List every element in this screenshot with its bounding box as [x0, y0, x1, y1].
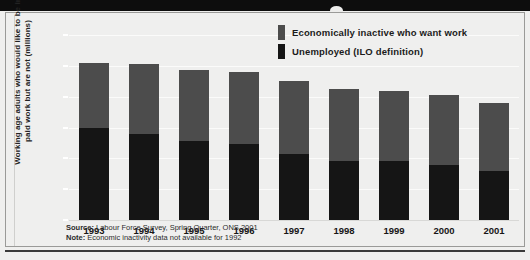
bar-segment-inactive [429, 95, 459, 164]
chart-plate: Working age adults who would like to be … [5, 12, 525, 247]
bar-segment-unemployed [129, 134, 159, 220]
x-tick-label-1999: 1999 [370, 225, 418, 236]
bar-segment-unemployed [279, 154, 309, 220]
gridline [69, 220, 519, 221]
note-label: Note: [66, 233, 85, 242]
y-axis-title: Working age adults who would like to be … [13, 0, 33, 172]
y-tick-mark [63, 157, 68, 159]
legend-item-unemployed: Unemployed (ILO definition) [278, 42, 467, 61]
source-text: Labour Force Survey, Spring Quarter, ONS… [94, 223, 258, 232]
source-label: Source: [66, 223, 94, 232]
bar-segment-inactive [79, 63, 109, 128]
note-text: Economic inactivity data not available f… [85, 233, 241, 242]
legend-swatch-inactive [278, 25, 285, 40]
bar-2001 [479, 103, 509, 220]
bar-segment-unemployed [329, 161, 359, 220]
y-tick-mark [63, 127, 68, 129]
bar-segment-unemployed [229, 144, 259, 220]
bar-1998 [329, 89, 359, 220]
bar-segment-unemployed [429, 165, 459, 221]
x-tick-label-2000: 2000 [420, 225, 468, 236]
legend-item-inactive: Economically inactive who want work [278, 23, 467, 42]
legend-label-unemployed: Unemployed (ILO definition) [292, 46, 423, 57]
bar-segment-inactive [129, 64, 159, 133]
plot-area: 0123456199319941995199619971998199920002… [69, 35, 519, 220]
bar-segment-inactive [479, 103, 509, 171]
legend-swatch-unemployed [278, 44, 285, 59]
chart-footnotes: Source: Labour Force Survey, Spring Quar… [66, 223, 258, 242]
bar-segment-unemployed [479, 171, 509, 220]
y-tick-mark [63, 96, 68, 98]
bar-segment-inactive [229, 72, 259, 144]
bar-1993 [79, 63, 109, 220]
title-band [0, 0, 530, 11]
bar-segment-inactive [329, 89, 359, 161]
x-tick-label-1998: 1998 [320, 225, 368, 236]
y-tick-mark [63, 34, 68, 36]
bar-1999 [379, 91, 409, 221]
bar-2000 [429, 95, 459, 220]
bottom-rule [5, 250, 525, 252]
bar-segment-inactive [279, 81, 309, 153]
y-tick-mark [63, 219, 68, 221]
bar-1997 [279, 81, 309, 220]
bar-1994 [129, 64, 159, 220]
bar-segment-inactive [179, 70, 209, 141]
bar-1996 [229, 72, 259, 220]
bar-segment-unemployed [179, 141, 209, 220]
y-tick-mark [63, 188, 68, 190]
x-tick-label-1997: 1997 [270, 225, 318, 236]
chart-figure: Working age adults who would like to be … [0, 0, 530, 260]
bar-segment-unemployed [79, 128, 109, 221]
legend-label-inactive: Economically inactive who want work [292, 27, 467, 38]
bar-segment-unemployed [379, 161, 409, 220]
bar-segment-inactive [379, 91, 409, 162]
x-tick-label-2001: 2001 [470, 225, 518, 236]
data-note: Note: Economic inactivity data not avail… [66, 233, 258, 243]
chart-legend: Economically inactive who want work Unem… [278, 23, 467, 61]
bar-1995 [179, 70, 209, 220]
source-note: Source: Labour Force Survey, Spring Quar… [66, 223, 258, 233]
y-tick-mark [63, 65, 68, 67]
